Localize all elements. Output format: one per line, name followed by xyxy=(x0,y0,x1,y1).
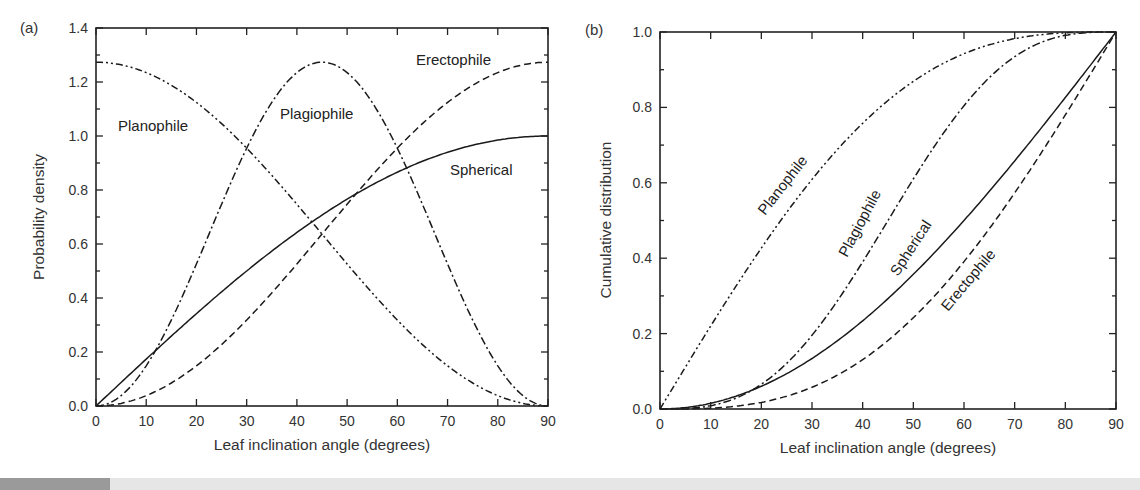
panel-b: (b) 01020304050607080900.00.20.40.60.81.… xyxy=(585,21,1124,456)
y-tick-label: 0.0 xyxy=(633,401,653,417)
label-spherical-b: Spherical xyxy=(886,217,934,279)
x-tick-label: 20 xyxy=(754,416,770,432)
y-tick-label: 0.6 xyxy=(69,236,89,252)
y-tick-label: 1.0 xyxy=(633,24,653,40)
x-tick-label: 50 xyxy=(339,413,355,429)
panel-a-label: (a) xyxy=(20,19,38,36)
label-plagiophile-b: Plagiophile xyxy=(835,187,884,260)
panel-b-ticks: 01020304050607080900.00.20.40.60.81.0 xyxy=(633,24,1124,432)
panel-a-xlabel: Leaf inclination angle (degrees) xyxy=(214,436,430,453)
curve-spherical xyxy=(660,32,1116,409)
x-tick-label: 60 xyxy=(390,413,406,429)
x-tick-label: 30 xyxy=(804,416,820,432)
label-plagiophile-a: Plagiophile xyxy=(280,105,353,122)
label-erectophile-a: Erectophile xyxy=(416,51,491,68)
y-tick-label: 0.4 xyxy=(69,290,89,306)
y-tick-label: 0.6 xyxy=(633,175,653,191)
y-tick-label: 0.0 xyxy=(69,398,89,414)
label-planophile-a: Planophile xyxy=(118,117,188,134)
y-tick-label: 0.8 xyxy=(633,99,653,115)
panel-b-frame xyxy=(660,32,1116,409)
x-tick-label: 10 xyxy=(138,413,154,429)
x-tick-label: 30 xyxy=(239,413,255,429)
x-tick-label: 90 xyxy=(1108,416,1124,432)
y-tick-label: 1.4 xyxy=(69,20,89,36)
panel-b-label: (b) xyxy=(585,21,603,38)
y-tick-label: 0.4 xyxy=(633,250,653,266)
x-tick-label: 60 xyxy=(956,416,972,432)
x-tick-label: 80 xyxy=(1058,416,1074,432)
y-tick-label: 1.0 xyxy=(69,128,89,144)
panel-b-ylabel: Cumulative distribution xyxy=(597,142,614,299)
x-tick-label: 70 xyxy=(440,413,456,429)
label-planophile-b: Planophile xyxy=(754,152,811,218)
label-erectophile-b: Erectophile xyxy=(937,246,998,314)
x-tick-label: 50 xyxy=(906,416,922,432)
panel-a-ylabel: Probability density xyxy=(30,154,47,280)
x-tick-label: 40 xyxy=(289,413,305,429)
figure: (a) 01020304050607080900.00.20.40.60.81.… xyxy=(0,0,1140,490)
label-spherical-a: Spherical xyxy=(450,161,513,178)
x-tick-label: 90 xyxy=(540,413,556,429)
curve-planophile xyxy=(660,32,1116,409)
y-tick-label: 0.2 xyxy=(633,326,653,342)
x-tick-label: 20 xyxy=(189,413,205,429)
footer-rule-accent xyxy=(0,478,110,490)
footer-rule xyxy=(0,478,1140,490)
y-tick-label: 0.2 xyxy=(69,344,89,360)
curve-erectophile xyxy=(660,32,1116,409)
panel-a-frame xyxy=(96,28,548,406)
panel-b-curves xyxy=(660,32,1116,409)
panel-b-xlabel: Leaf inclination angle (degrees) xyxy=(780,439,996,456)
x-tick-label: 0 xyxy=(92,413,100,429)
x-tick-label: 0 xyxy=(656,416,664,432)
panel-a-ticks: 01020304050607080900.00.20.40.60.81.01.2… xyxy=(69,20,556,429)
x-tick-label: 70 xyxy=(1007,416,1023,432)
panel-a: (a) 01020304050607080900.00.20.40.60.81.… xyxy=(20,19,556,453)
curve-plagiophile xyxy=(660,32,1116,409)
y-tick-label: 1.2 xyxy=(69,74,89,90)
x-tick-label: 10 xyxy=(703,416,719,432)
x-tick-label: 80 xyxy=(490,413,506,429)
y-tick-label: 0.8 xyxy=(69,182,89,198)
x-tick-label: 40 xyxy=(855,416,871,432)
